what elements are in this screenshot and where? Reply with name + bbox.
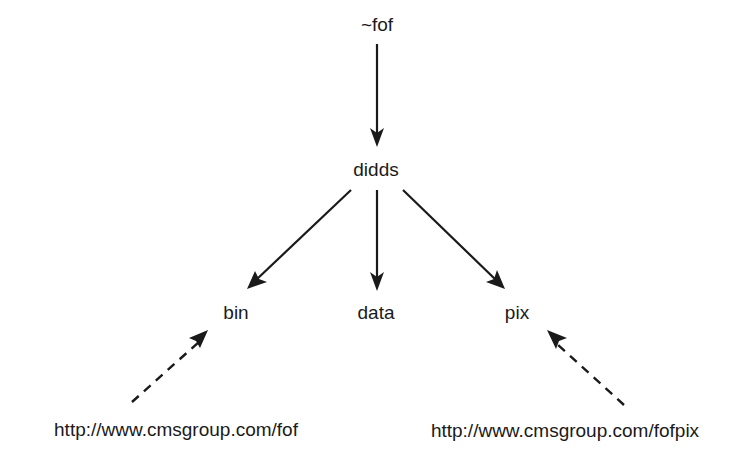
node-didds: didds [353, 160, 398, 179]
diagram-edges [0, 0, 733, 457]
node-root: ~fof [361, 15, 393, 34]
edge-root-to-didds [370, 44, 384, 147]
node-pix: pix [505, 303, 529, 322]
node-url-fofpix: http://www.cmsgroup.com/fofpix [431, 421, 699, 440]
directory-diagram: ~fof didds bin data pix http://www.cmsgr… [0, 0, 733, 457]
edge-url-fofpix-to-pix [547, 330, 624, 405]
edge-didds-to-bin [247, 190, 351, 289]
edge-didds-to-pix [403, 190, 505, 289]
edge-url-fof-to-bin [132, 330, 208, 402]
edge-didds-to-data [370, 190, 384, 291]
node-data: data [358, 303, 395, 322]
node-url-fof: http://www.cmsgroup.com/fof [54, 420, 298, 439]
node-bin: bin [223, 303, 248, 322]
